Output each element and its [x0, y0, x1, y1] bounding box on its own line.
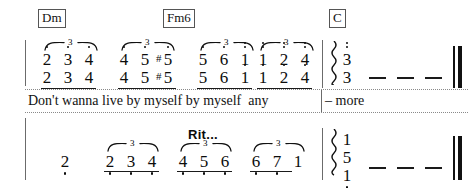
final-chord-top-note-2: 3	[340, 68, 354, 87]
sustain-dash-bottom-3	[425, 167, 442, 169]
note-upper-1-2: 3	[61, 50, 75, 69]
lyrics-line: Don't wanna live by myself by myself any	[28, 93, 268, 109]
octave-dot-down	[346, 186, 349, 188]
sheet-music-page: Dm Fm6 C 3 2 3 4 2	[0, 0, 474, 188]
measure-barline-bottom	[322, 128, 323, 180]
triplet-number-b3: 3	[276, 139, 281, 148]
sustain-dash-top-1	[369, 77, 386, 79]
note-upper-4-2: 2	[277, 50, 291, 69]
triplet-number-b2: 3	[203, 139, 208, 148]
sharp-icon: #	[156, 49, 162, 68]
chord-symbol-c[interactable]: C	[329, 9, 346, 28]
sustain-dash-top-3	[425, 77, 442, 79]
note-upper-2-2: 5	[138, 50, 152, 69]
lyric-guide-bottom	[25, 112, 468, 113]
note-lower-2-1: 4	[117, 68, 131, 87]
note-upper-1-3: 4	[82, 50, 96, 69]
final-chord-top-note-1: 3	[340, 50, 354, 69]
chord-symbol-dm[interactable]: Dm	[38, 9, 66, 28]
final-chord-bottom-note-1: 1	[340, 130, 354, 149]
note-upper-2-1: 4	[117, 50, 131, 69]
note-upper-2-3: # 5	[161, 50, 175, 69]
arpeggio-squiggle-top	[331, 41, 338, 85]
note-b1-3: 4	[145, 152, 159, 171]
octave-dot-down	[64, 172, 67, 175]
octave-dot-up	[346, 46, 349, 49]
note-upper-4-3: 4	[298, 50, 312, 69]
beam-group-b3	[250, 171, 292, 172]
final-barline-thin-top	[453, 46, 455, 88]
final-chord-top: 3 3	[340, 50, 354, 87]
note-lower-3-2: 6	[217, 68, 231, 87]
note-b3-1: 6	[249, 152, 263, 171]
final-barline-thin-bottom	[453, 136, 455, 180]
final-chord-bottom-note-2: 5	[340, 148, 354, 167]
note-lower-4-3: 4	[298, 68, 312, 87]
note-lower-4-1: 1	[256, 68, 270, 87]
final-barline-thick-bottom	[458, 136, 462, 180]
beam-group-b1	[104, 171, 159, 172]
lyrics-tail: – more	[325, 93, 364, 109]
chord-symbol-fm6[interactable]: Fm6	[163, 9, 195, 28]
sustain-dash-top-2	[397, 77, 414, 79]
lyric-divider-barline	[321, 90, 322, 112]
note-lower-2-3: # 5	[161, 68, 175, 87]
beam-group-b2	[177, 171, 232, 172]
arpeggio-squiggle-bottom	[331, 129, 338, 179]
sustain-dash-bottom-1	[369, 167, 386, 169]
note-lower-4-2: 2	[277, 68, 291, 87]
note-lower-2-2: 5	[138, 68, 152, 87]
note-b2-2: 5	[197, 152, 211, 171]
note-upper-1-1: 2	[40, 50, 54, 69]
system-start-barline-top	[25, 40, 26, 86]
note-b3-2: 7	[270, 152, 284, 171]
note-lower-1-1: 2	[40, 68, 54, 87]
sustain-dash-bottom-2	[397, 167, 414, 169]
note-b1-1: 2	[103, 152, 117, 171]
note-b2-3: 6	[218, 152, 232, 171]
note-b3-3: 1	[291, 152, 305, 171]
note-upper-4-1: 1	[256, 50, 270, 69]
final-chord-bottom: 1 5 1	[340, 130, 354, 185]
note-upper-3-2: 6	[217, 50, 231, 69]
triplet-bracket-b2: 3	[180, 143, 232, 152]
triplet-number-b1: 3	[130, 139, 135, 148]
lyric-guide-top	[25, 89, 468, 90]
note-lower-3-3: 1	[238, 68, 252, 87]
note-upper-3-1: 5	[196, 50, 210, 69]
note-lower-1-2: 3	[61, 68, 75, 87]
triplet-bracket-b1: 3	[107, 143, 159, 152]
triplet-bracket-b3: 3	[253, 143, 305, 152]
final-barline-thick-top	[458, 46, 462, 88]
note-lower-3-1: 5	[196, 68, 210, 87]
note-upper-3-3: 1	[238, 50, 252, 69]
octave-dot-up	[346, 42, 349, 45]
pickup-note: 2	[58, 152, 72, 171]
note-b2-1: 4	[176, 152, 190, 171]
note-b1-2: 3	[124, 152, 138, 171]
system-start-barline-bottom	[25, 118, 26, 180]
sharp-icon: #	[156, 67, 162, 86]
measure-barline-top	[322, 40, 323, 88]
final-chord-bottom-note-3: 1	[340, 166, 354, 185]
note-lower-1-3: 4	[82, 68, 96, 87]
